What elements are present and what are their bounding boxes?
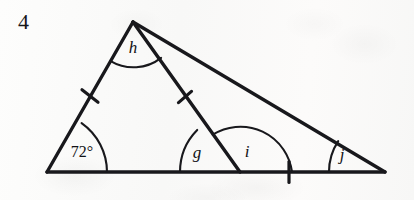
angle-label-i: i xyxy=(245,142,250,162)
angle-label-bottom-left: 72° xyxy=(71,143,93,161)
side-apex-to-bottom-right xyxy=(133,22,385,172)
angle-label-g: g xyxy=(193,143,202,163)
angle-arc-h xyxy=(111,58,162,68)
worksheet-page: 4 72° h g i j xyxy=(0,0,414,200)
geometry-figure xyxy=(0,0,414,200)
angle-label-j: j xyxy=(340,145,345,165)
angle-arc-j xyxy=(329,141,338,172)
angle-label-h: h xyxy=(129,38,138,58)
